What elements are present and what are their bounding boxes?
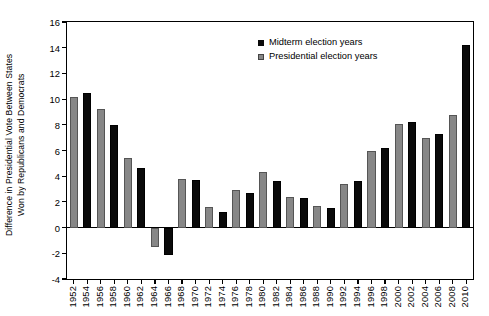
bar bbox=[124, 158, 132, 227]
x-axis-tick-label: 1984 bbox=[284, 286, 294, 307]
x-axis-tick bbox=[127, 279, 128, 284]
bar bbox=[381, 148, 389, 228]
bar bbox=[178, 179, 186, 228]
y-axis-tick-label: -2 bbox=[52, 248, 60, 259]
bar bbox=[313, 206, 321, 228]
bar bbox=[327, 208, 335, 227]
x-axis-tick bbox=[425, 279, 426, 284]
x-axis-tick-label: 1972 bbox=[203, 286, 213, 307]
bar-chart-figure: Difference in Presidential Vote Between … bbox=[0, 0, 489, 316]
x-axis-tick-label: 1978 bbox=[244, 286, 254, 307]
x-axis-tick-label: 1994 bbox=[352, 286, 362, 307]
bar bbox=[449, 115, 457, 228]
x-axis-tick-label: 1960 bbox=[122, 286, 132, 307]
x-axis-tick bbox=[236, 279, 237, 284]
x-axis-tick bbox=[209, 279, 210, 284]
x-axis-tick-label: 1964 bbox=[149, 286, 159, 307]
x-axis-tick bbox=[357, 279, 358, 284]
y-axis-tick-label: 4 bbox=[55, 171, 60, 182]
x-axis-tick-label: 1986 bbox=[298, 286, 308, 307]
x-axis-tick bbox=[114, 279, 115, 284]
x-axis-tick bbox=[263, 279, 264, 284]
bar bbox=[97, 109, 105, 227]
x-axis-tick bbox=[276, 279, 277, 284]
x-axis-tick-label: 1992 bbox=[338, 286, 348, 307]
x-axis-tick-label: 2002 bbox=[406, 286, 416, 307]
bar bbox=[137, 168, 145, 227]
y-axis-tick-label: 8 bbox=[55, 119, 60, 130]
bar bbox=[286, 197, 294, 228]
legend-item: Midterm election years bbox=[258, 36, 378, 50]
y-axis-tick-label: 14 bbox=[50, 42, 60, 53]
bar bbox=[83, 93, 91, 228]
x-axis-tick-label: 1958 bbox=[108, 286, 118, 307]
x-axis-tick bbox=[195, 279, 196, 284]
x-axis-tick-label: 1962 bbox=[135, 286, 145, 307]
chart-legend: Midterm election yearsPresidential elect… bbox=[258, 36, 378, 64]
x-axis-tick bbox=[168, 279, 169, 284]
x-axis-tick-label: 2008 bbox=[447, 286, 457, 307]
x-axis-tick-label: 2010 bbox=[460, 286, 470, 307]
x-axis-tick bbox=[317, 279, 318, 284]
y-axis-title-line-1: Difference in Presidential Vote Between … bbox=[4, 14, 14, 276]
bar bbox=[205, 207, 213, 228]
x-axis-tick-label: 2004 bbox=[420, 286, 430, 307]
x-axis-tick bbox=[181, 279, 182, 284]
bar bbox=[164, 228, 172, 255]
x-axis-tick-label: 1980 bbox=[257, 286, 267, 307]
x-axis-tick bbox=[384, 279, 385, 284]
bar bbox=[259, 172, 267, 227]
bar bbox=[435, 134, 443, 228]
legend-label: Presidential election years bbox=[269, 52, 378, 61]
x-axis-tick bbox=[330, 279, 331, 284]
bar bbox=[110, 125, 118, 228]
x-axis-tick bbox=[452, 279, 453, 284]
y-axis-tick-label: 12 bbox=[50, 68, 60, 79]
x-axis-tick bbox=[141, 279, 142, 284]
bar bbox=[354, 181, 362, 227]
bar bbox=[408, 122, 416, 227]
x-axis-tick-label: 2000 bbox=[393, 286, 403, 307]
y-axis-tick-label: 2 bbox=[55, 196, 60, 207]
bar bbox=[422, 138, 430, 228]
x-axis-tick bbox=[222, 279, 223, 284]
x-axis-tick bbox=[439, 279, 440, 284]
x-axis-tick-label: 1990 bbox=[325, 286, 335, 307]
bar bbox=[246, 193, 254, 228]
x-axis-tick bbox=[154, 279, 155, 284]
x-axis-tick bbox=[466, 279, 467, 284]
bar bbox=[340, 184, 348, 228]
bar bbox=[300, 198, 308, 228]
x-axis-tick-label: 1954 bbox=[81, 286, 91, 307]
x-axis-tick-label: 1966 bbox=[163, 286, 173, 307]
y-axis-tick-label: -4 bbox=[52, 274, 60, 285]
x-axis-tick bbox=[412, 279, 413, 284]
x-axis-tick-label: 1970 bbox=[190, 286, 200, 307]
x-axis-tick-label: 1982 bbox=[271, 286, 281, 307]
bar bbox=[219, 212, 227, 227]
y-axis-tick-label: 16 bbox=[50, 17, 60, 28]
y-axis-tick-label: 10 bbox=[50, 94, 60, 105]
y-axis-tick-label: 0 bbox=[55, 222, 60, 233]
x-axis-tick-label: 1952 bbox=[68, 286, 78, 307]
bar bbox=[273, 181, 281, 227]
x-axis-tick bbox=[398, 279, 399, 284]
x-axis-tick bbox=[371, 279, 372, 284]
y-axis-title: Difference in Presidential Vote Between … bbox=[0, 0, 34, 290]
bar bbox=[192, 180, 200, 228]
x-axis-tick bbox=[100, 279, 101, 284]
x-axis-tick bbox=[73, 279, 74, 284]
bar bbox=[367, 151, 375, 228]
x-axis-tick-label: 1996 bbox=[366, 286, 376, 307]
legend-swatch-icon bbox=[258, 40, 264, 46]
x-axis-tick bbox=[249, 279, 250, 284]
x-axis-tick bbox=[290, 279, 291, 284]
x-axis-tick-label: 2006 bbox=[433, 286, 443, 307]
x-axis-tick-label: 1974 bbox=[217, 286, 227, 307]
y-axis-tick-label: 6 bbox=[55, 145, 60, 156]
x-axis-tick-label: 1998 bbox=[379, 286, 389, 307]
x-axis-tick bbox=[344, 279, 345, 284]
legend-label: Midterm election years bbox=[269, 38, 363, 47]
x-axis-tick-label: 1968 bbox=[176, 286, 186, 307]
legend-item: Presidential election years bbox=[258, 50, 378, 64]
